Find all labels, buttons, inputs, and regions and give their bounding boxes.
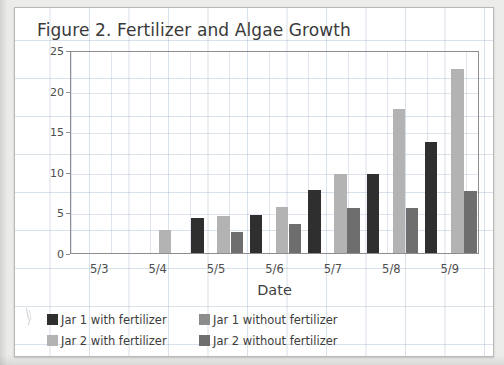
bar (231, 232, 244, 253)
gridline-vertical (71, 52, 72, 253)
y-axis-tick-label: 15 (15, 126, 64, 139)
bar (464, 191, 477, 253)
x-axis-tick-label: 5/9 (441, 262, 460, 276)
bar (347, 208, 360, 254)
bar (250, 215, 263, 253)
legend-entry[interactable]: Jar 1 with fertilizer (47, 313, 199, 327)
x-axis-title: Date (70, 282, 479, 298)
y-axis-tick-label: 25 (15, 45, 64, 58)
bar (367, 174, 380, 253)
x-axis-tick-label: 5/3 (90, 262, 109, 276)
gridline-vertical (387, 52, 388, 253)
bar (334, 174, 347, 253)
bar (276, 207, 289, 253)
x-axis-tick-label: 5/8 (382, 262, 401, 276)
bar (191, 218, 204, 253)
bar (406, 208, 419, 254)
legend-label: Jar 1 without fertilizer (213, 313, 337, 327)
legend-label: Jar 1 with fertilizer (61, 313, 167, 327)
x-axis-tick-label: 5/4 (148, 262, 167, 276)
legend-entry[interactable]: Jar 1 without fertilizer (199, 313, 337, 327)
legend-row: Jar 2 with fertilizerJar 2 without ferti… (47, 330, 347, 351)
plot-area (70, 51, 479, 254)
chart-card: Figure 2. Fertilizer and Algae Growth Di… (14, 7, 494, 357)
bar (308, 190, 321, 253)
gridline-horizontal (71, 133, 478, 134)
bar (393, 109, 406, 253)
gridline-horizontal (71, 93, 478, 94)
scanned-page-surface: Figure 2. Fertilizer and Algae Growth Di… (0, 0, 504, 365)
legend-entry[interactable]: Jar 2 with fertilizer (47, 334, 199, 348)
y-axis-tick-label: 0 (15, 248, 64, 261)
legend-swatch (47, 314, 58, 325)
legend-label: Jar 2 with fertilizer (61, 334, 167, 348)
x-axis-tick-label: 5/6 (265, 262, 284, 276)
x-axis-tick-label: 5/5 (207, 262, 226, 276)
bar (425, 142, 438, 253)
gridline-horizontal (71, 174, 478, 175)
y-axis-tick-label: 5 (15, 207, 64, 220)
bar (217, 216, 230, 253)
gridline-vertical (150, 52, 151, 253)
legend-row: Jar 1 with fertilizerJar 1 without ferti… (47, 309, 347, 330)
legend-swatch (199, 335, 210, 346)
bar (451, 69, 464, 253)
legend-swatch (47, 335, 58, 346)
chart-legend: Jar 1 with fertilizerJar 1 without ferti… (47, 309, 347, 351)
gridline-vertical (111, 52, 112, 253)
bar (159, 230, 172, 254)
legend-swatch (199, 314, 210, 325)
legend-entry[interactable]: Jar 2 without fertilizer (199, 334, 337, 348)
legend-label: Jar 2 without fertilizer (213, 334, 337, 348)
bar (289, 224, 302, 253)
scanner-smudge-icon (23, 306, 35, 326)
y-axis-tick-label: 10 (15, 166, 64, 179)
gridline-vertical (269, 52, 270, 253)
x-axis-tick-label: 5/7 (324, 262, 343, 276)
y-axis-tick-mark (66, 254, 70, 255)
chart-title: Figure 2. Fertilizer and Algae Growth (37, 20, 351, 40)
y-axis-tick-label: 20 (15, 85, 64, 98)
